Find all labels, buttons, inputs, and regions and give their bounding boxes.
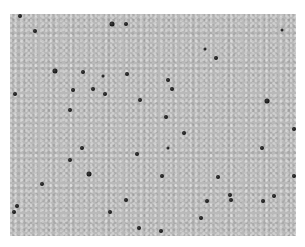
stained-nucleus — [182, 131, 186, 135]
stained-nucleus — [68, 108, 72, 112]
stained-nucleus — [40, 182, 44, 186]
stained-nucleus — [272, 194, 276, 198]
stained-nucleus — [159, 229, 163, 233]
stained-nucleus — [110, 22, 115, 27]
stained-nucleus — [214, 56, 218, 60]
stained-nucleus — [12, 210, 16, 214]
stained-nucleus — [170, 87, 174, 91]
stained-nucleus — [13, 92, 17, 96]
stained-nucleus — [135, 152, 139, 156]
stained-nucleus — [33, 29, 37, 33]
stained-nucleus — [166, 78, 170, 82]
stained-nucleus — [102, 75, 105, 78]
stained-nucleus — [68, 158, 72, 162]
stained-nucleus — [15, 204, 19, 208]
stained-nucleus — [81, 70, 85, 74]
stained-nucleus — [124, 22, 128, 26]
stained-nucleus — [87, 172, 92, 177]
stained-nucleus — [138, 98, 142, 102]
micrograph-image — [10, 14, 296, 236]
stained-nucleus — [91, 87, 95, 91]
stained-nucleus — [265, 99, 270, 104]
stained-nucleus — [125, 72, 129, 76]
stained-nucleus — [204, 48, 207, 51]
stained-nucleus — [71, 88, 75, 92]
stained-nucleus — [292, 127, 296, 131]
stained-nucleus — [205, 199, 209, 203]
stained-nucleus — [292, 174, 296, 178]
stained-nucleus — [137, 226, 141, 230]
stained-nucleus — [260, 146, 264, 150]
stained-nucleus — [160, 174, 164, 178]
stained-nucleus — [261, 199, 265, 203]
stained-nucleus — [124, 198, 128, 202]
stained-nucleus — [103, 92, 107, 96]
stained-nucleus — [199, 216, 203, 220]
stained-nucleus — [18, 14, 22, 18]
stained-nucleus — [216, 175, 220, 179]
stained-nucleus — [80, 146, 84, 150]
stained-nucleus — [281, 29, 284, 32]
stained-nucleus — [108, 210, 112, 214]
stained-nucleus — [167, 147, 170, 150]
stained-nucleus — [228, 193, 232, 197]
stained-nucleus — [164, 115, 168, 119]
stained-nucleus — [229, 198, 233, 202]
stained-nucleus — [53, 69, 58, 74]
